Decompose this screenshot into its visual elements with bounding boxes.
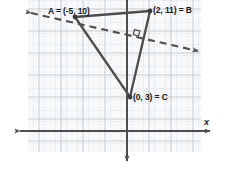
graph-svg (0, 0, 230, 169)
point-label-b: (2, 11) = B (153, 5, 192, 15)
point-label-a: A = (-5, 10) (48, 6, 90, 16)
x-axis-label: x (204, 117, 209, 127)
point-label-c: (0, 3) = C (133, 92, 168, 102)
coordinate-plane-figure: A = (-5, 10) (2, 11) = B (0, 3) = C x (0, 0, 230, 169)
vertex-b (148, 9, 153, 14)
vertex-c (128, 95, 133, 100)
